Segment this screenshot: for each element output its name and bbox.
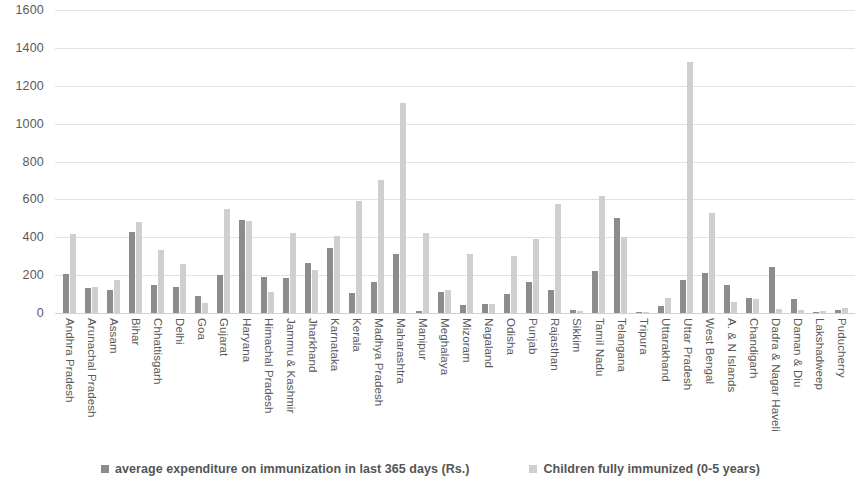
x-axis-tick: Manipur: [411, 316, 433, 451]
legend-item[interactable]: Children fully immunized (0-5 years): [529, 462, 759, 476]
bar-group: [499, 10, 521, 313]
bar-group: [301, 10, 323, 313]
x-axis-tick-label: Dadra & Nagar Haveli: [770, 318, 781, 432]
bar-series-2: [687, 62, 693, 313]
y-axis-tick-label: 1600: [15, 4, 44, 16]
bar-series-2: [70, 234, 76, 313]
x-axis-tick-label: Odisha: [505, 318, 516, 355]
y-axis-tick-label: 1000: [15, 118, 44, 130]
bar-series-1: [173, 287, 179, 313]
x-axis-tick-label: Gujarat: [218, 318, 229, 356]
x-axis-tick: Jammu & Kashmir: [279, 316, 301, 451]
x-axis-tick-label: Punjab: [527, 318, 538, 354]
x-axis-tick-label: Daman & Diu: [792, 318, 803, 388]
bar-series-1: [570, 310, 576, 313]
bar-group: [168, 10, 190, 313]
bar-series-2: [643, 312, 649, 313]
bar-series-2: [202, 303, 208, 313]
bar-series-1: [813, 312, 819, 313]
x-axis-tick: Lakshadweep: [808, 316, 830, 451]
bar-series-1: [239, 220, 245, 313]
bar-group: [146, 10, 168, 313]
bar-series-1: [85, 288, 91, 313]
y-axis-tick-label: 1200: [15, 80, 44, 92]
bar-series-1: [416, 311, 422, 313]
x-axis-tick: Chhattisgarh: [146, 316, 168, 451]
bar-series-2: [356, 201, 362, 313]
x-axis-tick-label: Jammu & Kashmir: [284, 318, 295, 413]
bar-group: [610, 10, 632, 313]
bar-group: [565, 10, 587, 313]
x-axis-tick: Nagaland: [477, 316, 499, 451]
bar-group: [654, 10, 676, 313]
x-axis-tick-label: Madhya Pradesh: [372, 318, 383, 406]
x-axis-tick-label: Meghalaya: [439, 318, 450, 375]
bar-series-1: [327, 248, 333, 313]
bar-series-2: [820, 311, 826, 313]
x-axis-tick-label: A. & N Islands: [725, 318, 736, 392]
x-axis-tick: West Bengal: [698, 316, 720, 451]
x-axis-tick-label: Rajasthan: [549, 318, 560, 371]
x-axis-tick: Bihar: [124, 316, 146, 451]
legend-item[interactable]: average expenditure on immunization in l…: [101, 462, 469, 476]
x-axis-tick: Puducherry: [830, 316, 852, 451]
bar-series-1: [658, 306, 664, 313]
bar-group: [389, 10, 411, 313]
legend-swatch-icon: [101, 465, 109, 473]
bar-group: [455, 10, 477, 313]
bar-series-1: [63, 274, 69, 313]
x-axis-tick: Uttarakhand: [654, 316, 676, 451]
x-axis-tick: Delhi: [168, 316, 190, 451]
bar-series-2: [180, 264, 186, 313]
bar-series-1: [548, 290, 554, 313]
x-axis-tick: Tripura: [632, 316, 654, 451]
x-axis-tick-label: Mizoram: [461, 318, 472, 363]
x-axis-tick: Arunachal Pradesh: [80, 316, 102, 451]
bar-group: [323, 10, 345, 313]
bar-group: [808, 10, 830, 313]
x-axis-tick: Rajasthan: [543, 316, 565, 451]
y-axis-tick-label: 600: [23, 193, 44, 205]
bar-series-1: [769, 267, 775, 313]
x-axis-tick: Tamil Nadu: [588, 316, 610, 451]
x-axis-tick-label: Tripura: [637, 318, 648, 355]
x-axis-tick-label: Kerala: [350, 318, 361, 352]
x-axis-tick-label: Tamil Nadu: [593, 318, 604, 377]
bar-series-2: [511, 256, 517, 313]
bar-group: [786, 10, 808, 313]
x-axis-tick: Andhra Pradesh: [58, 316, 80, 451]
bar-group: [212, 10, 234, 313]
x-axis-tick-label: Chhattisgarh: [152, 318, 163, 384]
bar-series-2: [599, 196, 605, 313]
bar-group: [279, 10, 301, 313]
x-axis-tick: Himachal Pradesh: [257, 316, 279, 451]
y-axis-tick-label: 800: [23, 156, 44, 168]
bar-series-2: [776, 309, 782, 313]
bar-group: [102, 10, 124, 313]
x-axis-tick-label: Andhra Pradesh: [64, 318, 75, 403]
bar-series-2: [533, 239, 539, 313]
bar-series-1: [129, 232, 135, 313]
bar-group: [742, 10, 764, 313]
x-axis-tick-label: Arunachal Pradesh: [86, 318, 97, 418]
y-axis-tick-label: 400: [23, 231, 44, 243]
bar-series-2: [621, 237, 627, 313]
x-axis-tick-label: Haryana: [240, 318, 251, 362]
x-axis-tick-label: Goa: [196, 318, 207, 340]
x-axis-tick-label: Bihar: [130, 318, 141, 345]
x-axis-tick: Gujarat: [212, 316, 234, 451]
x-axis-tick-label: Uttar Pradesh: [681, 318, 692, 390]
x-axis-tick-label: Karnataka: [328, 318, 339, 371]
gridline: [55, 313, 855, 314]
x-axis-tick-label: Telangana: [615, 318, 626, 372]
bar-series-2: [92, 287, 98, 313]
bar-group: [477, 10, 499, 313]
bar-group: [257, 10, 279, 313]
bar-group: [521, 10, 543, 313]
x-axis-tick: Uttar Pradesh: [676, 316, 698, 451]
x-axis-tick: A. & N Islands: [720, 316, 742, 451]
bar-series-1: [151, 285, 157, 313]
bar-group: [632, 10, 654, 313]
bar-groups: [55, 10, 855, 313]
bar-series-2: [731, 302, 737, 313]
